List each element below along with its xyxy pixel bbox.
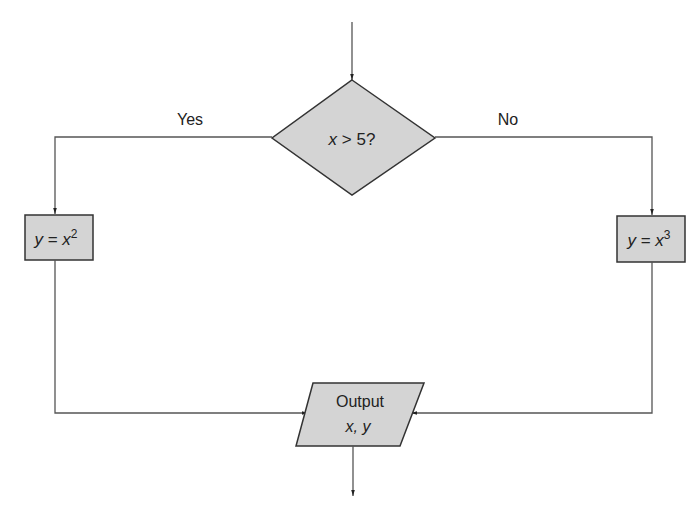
decision-rest: 5? (356, 130, 375, 149)
no-label: No (498, 111, 519, 128)
yes-label: Yes (177, 111, 203, 128)
yes-process-node: y = x2 (25, 215, 93, 260)
no-eq: = (636, 231, 655, 250)
svg-text:x > 5?: x > 5? (328, 130, 376, 149)
yes-exp: 2 (71, 227, 78, 241)
no-exp: 3 (664, 228, 671, 242)
yes-base: x (61, 230, 71, 249)
yes-connector (55, 137, 272, 214)
flowchart: x > 5? Yes No y = x2 y = x3 Output x, y (0, 0, 698, 514)
decision-node: x > 5? (272, 80, 435, 195)
output-line2: x, y (345, 418, 372, 435)
output-node: Output x, y (296, 383, 424, 446)
no-base: x (654, 231, 664, 250)
no-connector (435, 137, 652, 215)
decision-op: > (337, 130, 356, 149)
yes-eq: = (43, 230, 62, 249)
yes-to-output-connector (55, 260, 308, 413)
no-to-output-connector (411, 262, 652, 413)
no-process-node: y = x3 (617, 216, 685, 262)
decision-var: x (328, 130, 338, 149)
output-line1: Output (336, 393, 385, 410)
